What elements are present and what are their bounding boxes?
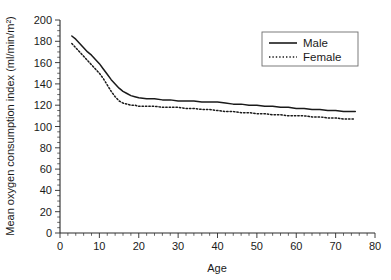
y-tick-label: 40 — [40, 184, 52, 196]
y-tick-label: 80 — [40, 142, 52, 154]
y-axis-ticks — [55, 20, 60, 233]
x-tick-label: 60 — [290, 240, 302, 252]
y-tick-label: 100 — [34, 121, 52, 133]
x-axis-ticks — [60, 233, 375, 238]
y-tick-label: 200 — [34, 14, 52, 26]
x-axis-title: Age — [207, 262, 227, 274]
x-tick-label: 80 — [369, 240, 381, 252]
y-tick-label: 20 — [40, 206, 52, 218]
x-tick-label: 40 — [211, 240, 223, 252]
x-tick-label: 50 — [251, 240, 263, 252]
legend-label-female: Female — [303, 51, 341, 63]
y-tick-label: 60 — [40, 163, 52, 175]
y-axis-title: Mean oxygen consumption index (ml/min/m²… — [4, 16, 16, 235]
x-tick-label: 70 — [330, 240, 342, 252]
legend-label-male: Male — [303, 37, 328, 49]
chart-svg: 020406080100120140160180200 010203040506… — [0, 0, 391, 280]
x-tick-label: 20 — [133, 240, 145, 252]
chart-figure: 020406080100120140160180200 010203040506… — [0, 0, 391, 280]
y-tick-label: 180 — [34, 35, 52, 47]
legend: Male Female — [262, 32, 358, 66]
y-axis-tick-labels: 020406080100120140160180200 — [34, 14, 52, 239]
x-tick-label: 10 — [93, 240, 105, 252]
y-tick-label: 0 — [46, 227, 52, 239]
x-tick-label: 0 — [57, 240, 63, 252]
x-tick-label: 30 — [172, 240, 184, 252]
y-tick-label: 140 — [34, 78, 52, 90]
y-tick-label: 120 — [34, 99, 52, 111]
x-axis-tick-labels: 01020304050607080 — [57, 240, 381, 252]
y-tick-label: 160 — [34, 57, 52, 69]
